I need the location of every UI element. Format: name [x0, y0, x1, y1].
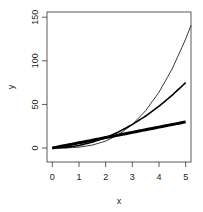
x-tick-label: 0 [50, 172, 55, 182]
y-tick-label: 50 [30, 99, 40, 109]
y-tick-label: 150 [30, 10, 40, 25]
x-tick-label: 2 [103, 172, 108, 182]
series-line-3x-2 [52, 83, 185, 148]
x-axis-label: x [117, 196, 122, 206]
x-tick-label: 4 [156, 172, 161, 182]
y-axis: 050100150 [30, 10, 47, 151]
series-group [52, 25, 191, 148]
y-tick-label: 100 [30, 53, 40, 68]
chart: 012345 050100150 x y [0, 0, 203, 212]
y-axis-label: y [6, 84, 16, 89]
x-tick-label: 3 [130, 172, 135, 182]
x-axis: 012345 [50, 162, 188, 182]
x-tick-label: 5 [183, 172, 188, 182]
series-line-6x [52, 122, 185, 148]
y-tick-label: 0 [30, 146, 40, 151]
plot-box [47, 12, 191, 162]
x-tick-label: 1 [76, 172, 81, 182]
